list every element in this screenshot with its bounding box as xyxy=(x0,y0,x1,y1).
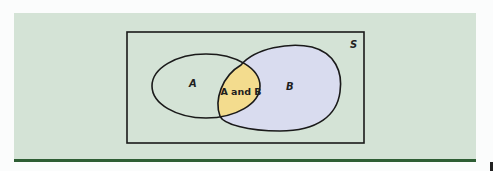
venn-diagram-figure: S A B A and B xyxy=(0,0,493,171)
set-b-label: B xyxy=(286,81,294,92)
sample-space-label: S xyxy=(350,39,357,50)
bottom-rule-line xyxy=(14,159,476,162)
intersection-label: A and B xyxy=(220,86,261,97)
set-a-label: A xyxy=(188,78,197,89)
